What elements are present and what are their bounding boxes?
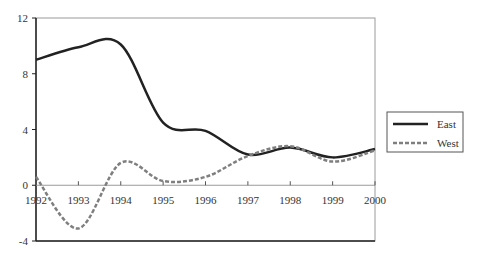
legend-east-label: East bbox=[437, 118, 456, 130]
line-chart: -404812 19921993199419951996199719981999… bbox=[0, 0, 479, 258]
y-tick-label: 8 bbox=[23, 68, 29, 80]
x-tick-label: 2000 bbox=[364, 194, 387, 206]
x-tick-label: 1995 bbox=[152, 194, 175, 206]
plot-area bbox=[36, 18, 375, 241]
y-tick-label: 0 bbox=[23, 179, 29, 191]
x-tick-label: 1997 bbox=[237, 194, 260, 206]
legend: East West bbox=[387, 112, 463, 152]
x-tick-label: 1994 bbox=[110, 194, 133, 206]
legend-west-label: West bbox=[437, 137, 459, 149]
x-tick-label: 1999 bbox=[322, 194, 345, 206]
x-tick-label: 1993 bbox=[67, 194, 90, 206]
y-axis-ticks: -404812 bbox=[17, 12, 36, 247]
x-tick-label: 1998 bbox=[279, 194, 302, 206]
y-tick-label: 12 bbox=[17, 12, 28, 24]
x-tick-label: 1996 bbox=[195, 194, 218, 206]
y-tick-label: -4 bbox=[19, 235, 29, 247]
y-tick-label: 4 bbox=[23, 124, 29, 136]
x-tick-label: 1992 bbox=[25, 194, 47, 206]
